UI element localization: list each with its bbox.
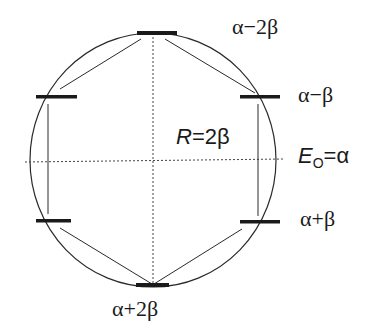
- frost-circle: [30, 33, 276, 287]
- energy-var: E: [298, 143, 313, 168]
- radius-value: =2β: [192, 124, 230, 149]
- energy-value: =α: [324, 143, 350, 168]
- level-bar-upper-right: [240, 95, 280, 99]
- reference-energy-label: EO=α: [298, 145, 349, 167]
- level-label-top: α−2β: [232, 16, 278, 38]
- level-bar-lower-left: [36, 219, 71, 223]
- level-label-lower-right: α+β: [300, 208, 335, 230]
- radius-label: R=2β: [176, 126, 230, 148]
- level-bar-top: [137, 31, 177, 35]
- radius-var: R: [176, 124, 192, 149]
- level-bar-upper-left: [36, 95, 77, 99]
- level-label-bottom: α+2β: [112, 298, 158, 320]
- level-bar-bottom: [136, 283, 169, 287]
- energy-level-bars: [36, 31, 280, 287]
- level-bar-lower-right: [240, 220, 280, 224]
- reference-energy-line: [25, 159, 285, 162]
- level-label-upper-right: α−β: [298, 84, 333, 106]
- energy-subscript: O: [313, 155, 324, 171]
